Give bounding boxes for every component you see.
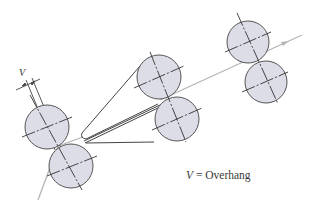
overhang-diagram [0,0,319,209]
middle-roller-pair [134,52,202,142]
right-roller-pair [225,13,288,104]
dimension-label-v: V [19,67,25,78]
legend-text: Overhang [205,169,250,181]
legend-symbol: V [186,169,193,181]
legend: V = Overhang [186,169,251,181]
feed-direction-arrow-icon [281,41,289,46]
legend-equals: = [193,169,205,181]
